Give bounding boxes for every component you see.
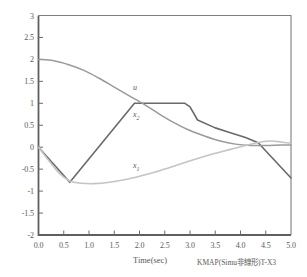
y-tick-label: 0 xyxy=(8,143,34,152)
chart-container: 32.521.510.50-0.5-1-1.5-2 0.00.51.01.52.… xyxy=(0,0,307,277)
x-tick-label: 4.5 xyxy=(261,241,271,250)
series-label-x1: x1 xyxy=(133,161,140,172)
x-tick-label: 5.0 xyxy=(286,241,296,250)
series-label-x2: x2 xyxy=(133,110,140,121)
y-tick-label: 3 xyxy=(8,11,34,20)
series-lines xyxy=(39,59,292,183)
y-tick-label: -2 xyxy=(8,231,34,240)
x-tick-label: 1.0 xyxy=(84,241,94,250)
axis-frame xyxy=(39,16,292,236)
y-tick-label: 2.5 xyxy=(8,33,34,42)
x-tick-label: 2.0 xyxy=(135,241,145,250)
x-tick-label: 0.0 xyxy=(34,241,44,250)
x-axis-title: Time(sec) xyxy=(133,255,167,265)
series-label-u: u xyxy=(133,83,137,92)
series-x2 xyxy=(39,59,292,145)
plot-svg xyxy=(0,0,307,277)
x-tick-label: 4.0 xyxy=(236,241,246,250)
x-tick-label: 1.5 xyxy=(109,241,119,250)
y-tick-label: 1 xyxy=(8,99,34,108)
x-tick-label: 3.0 xyxy=(185,241,195,250)
y-tick-label: -1 xyxy=(8,187,34,196)
x-tick-label: 2.5 xyxy=(160,241,170,250)
y-tick-label: 2 xyxy=(8,55,34,64)
x-tick-label: 3.5 xyxy=(210,241,220,250)
footer-source-note: KMAP(Simu非線形)T-X3 xyxy=(197,256,276,267)
x-tick-label: 0.5 xyxy=(59,241,69,250)
series-x1 xyxy=(39,141,292,184)
y-tick-label: 0.5 xyxy=(8,121,34,130)
y-tick-label: -0.5 xyxy=(8,165,34,174)
y-tick-label: -1.5 xyxy=(8,209,34,218)
y-tick-label: 1.5 xyxy=(8,77,34,86)
axis-ticks xyxy=(39,37,266,235)
